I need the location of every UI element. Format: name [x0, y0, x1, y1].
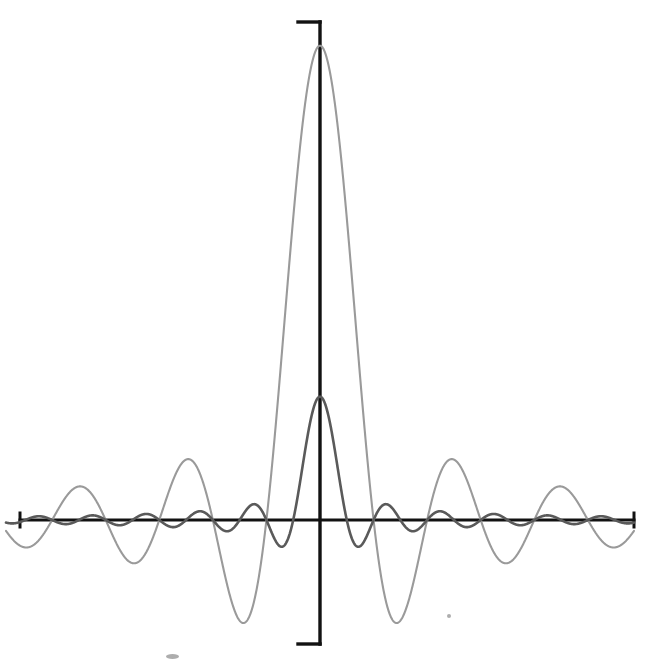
axes-group [20, 22, 634, 644]
plot-canvas [0, 0, 651, 665]
speck-lower-left [166, 654, 179, 659]
speck-lower-right [447, 614, 451, 618]
figure-root [0, 0, 651, 665]
